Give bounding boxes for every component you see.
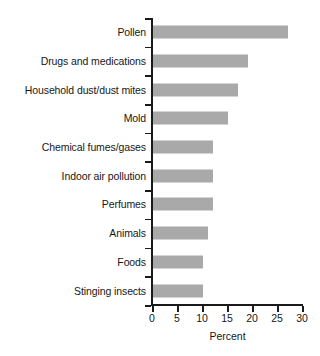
bar-row: Perfumes (0, 190, 320, 219)
category-label: Perfumes (102, 199, 146, 210)
x-axis-tick-label: 25 (271, 313, 283, 325)
bar-chart: PollenDrugs and medicationsHousehold dus… (0, 0, 320, 356)
x-axis-tick-label: 30 (296, 313, 308, 325)
x-axis-tick-label: 5 (174, 313, 180, 325)
bar (153, 284, 203, 297)
bar (153, 198, 213, 211)
bar-row: Indoor air pollution (0, 161, 320, 190)
bar (153, 112, 228, 125)
y-axis-tick (145, 133, 151, 135)
x-axis-tick-label: 20 (246, 313, 258, 325)
category-label: Household dust/dust mites (25, 84, 146, 95)
bar-row: Drugs and medications (0, 47, 320, 76)
x-axis-tick-label: 0 (149, 313, 155, 325)
category-label: Foods (117, 257, 146, 268)
x-axis-tick-labels: 051015202530 (0, 313, 320, 329)
bar-row: Chemical fumes/gases (0, 133, 320, 162)
y-axis-tick (145, 190, 151, 192)
bar (153, 83, 238, 96)
bar (153, 26, 288, 39)
bar-row: Stinging insects (0, 276, 320, 305)
y-axis-tick (145, 47, 151, 49)
bar (153, 255, 203, 268)
x-axis-tick-label: 10 (196, 313, 208, 325)
category-label: Animals (109, 228, 146, 239)
y-axis-tick (145, 75, 151, 77)
category-label: Mold (124, 113, 146, 124)
bar-row: Mold (0, 104, 320, 133)
bar-row: Foods (0, 248, 320, 277)
x-axis-title: Percent (152, 331, 303, 343)
bar-rows: PollenDrugs and medicationsHousehold dus… (0, 18, 320, 305)
category-label: Indoor air pollution (62, 171, 146, 182)
bar (153, 55, 248, 68)
y-axis-tick (145, 161, 151, 163)
y-axis-tick (145, 219, 151, 221)
category-label: Drugs and medications (41, 56, 146, 67)
bar (153, 141, 213, 154)
bar-row: Pollen (0, 18, 320, 47)
bar (153, 169, 213, 182)
category-label: Stinging insects (74, 285, 146, 296)
bar-row: Household dust/dust mites (0, 75, 320, 104)
y-axis-tick (145, 248, 151, 250)
bar (153, 227, 208, 240)
y-axis-tick (145, 18, 151, 20)
category-label: Chemical fumes/gases (42, 142, 146, 153)
y-axis-tick (145, 104, 151, 106)
y-axis-tick (145, 276, 151, 278)
plot-area: PollenDrugs and medicationsHousehold dus… (0, 0, 320, 356)
category-label: Pollen (117, 27, 146, 38)
x-axis-tick-label: 15 (221, 313, 233, 325)
bar-row: Animals (0, 219, 320, 248)
